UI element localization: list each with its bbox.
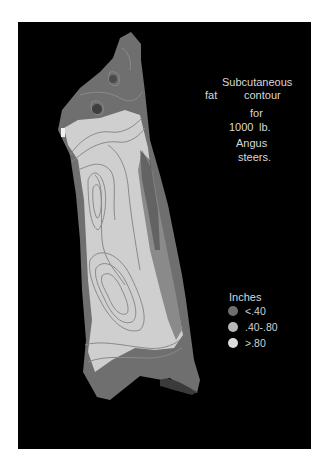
legend-swatch-thick-icon [228, 338, 238, 348]
legend-swatch-thin-icon [228, 306, 238, 316]
legend-swatch-medium-icon [228, 322, 238, 332]
dark-spot [92, 104, 102, 114]
dark-spot [109, 75, 117, 83]
legend-title: Inches [229, 291, 261, 303]
title-line-6: steers. [238, 151, 271, 164]
title-line-4a: 1000 [229, 121, 253, 134]
title-line-2a: fat [205, 89, 217, 102]
title-line-3: for [250, 107, 263, 120]
title-line-4b: lb. [259, 121, 271, 134]
legend-label: <.40 [245, 305, 266, 317]
legend-label: .40-.80 [245, 321, 278, 333]
carcass-contour-map [0, 0, 327, 468]
title-line-1: Subcutaneous [222, 76, 292, 89]
legend-label: >.80 [245, 337, 266, 349]
highlight [61, 128, 65, 137]
legend-item-medium: .40-.80 [228, 321, 278, 333]
legend-item-thick: >.80 [228, 337, 266, 349]
title-line-2b: contour [244, 89, 281, 102]
title-line-5: Angus [236, 137, 267, 150]
legend-item-thin: <.40 [228, 305, 266, 317]
